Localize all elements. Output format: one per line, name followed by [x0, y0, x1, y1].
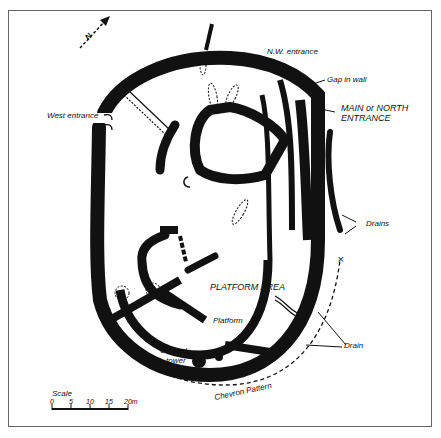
platform-label: Platform: [213, 317, 243, 325]
svg-text:×: ×: [337, 254, 345, 264]
scale-tick-20m: 20m: [124, 398, 138, 405]
scale-tick-5: 5: [69, 398, 73, 405]
conical-tower-label-line2: tower: [166, 357, 186, 365]
scale-tick-15: 15: [105, 398, 113, 405]
main-entrance-label-line1: MAIN or NORTH: [341, 104, 408, 113]
scale-tick-10: 10: [86, 398, 94, 405]
scale-tick-0: 0: [50, 398, 54, 405]
main-entrance-label-line2: ENTRANCE: [341, 114, 391, 123]
platform-area-label: PLATFORM AREA: [210, 283, 285, 292]
drain-label: Drain: [344, 342, 363, 350]
conical-tower-marker: [192, 354, 206, 368]
drains-label: Drains: [366, 220, 389, 228]
nw-entrance-label: N.W. entrance: [267, 48, 318, 56]
svg-text:×: ×: [100, 313, 108, 323]
conical-tower-label-line1: Conical: [160, 347, 187, 355]
gap-in-wall-label: Gap in wall: [327, 76, 367, 84]
scale-title: Scale: [52, 390, 72, 398]
north-arrow-icon: [80, 16, 110, 48]
west-entrance-label: West entrance: [47, 112, 98, 120]
